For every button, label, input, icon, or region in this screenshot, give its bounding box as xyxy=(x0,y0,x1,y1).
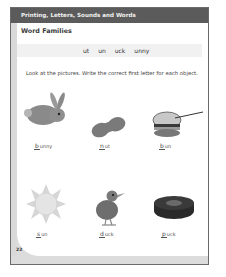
word-family: un xyxy=(98,47,106,54)
left-margin-stripe xyxy=(11,23,17,264)
hamburger-bun-icon xyxy=(151,110,207,144)
duck-icon xyxy=(93,188,127,232)
bottom-margin-stripe xyxy=(11,256,208,264)
answer-bun: bun xyxy=(159,142,171,150)
page-number: 22 xyxy=(16,247,22,252)
word-family: uck xyxy=(115,47,126,54)
workbook-page: Printing, Letters, Sounds and Words Word… xyxy=(10,7,209,265)
answer-bunny: bunny xyxy=(34,142,52,150)
rabbit-icon xyxy=(21,91,71,131)
answer-nut: nut xyxy=(99,142,110,150)
answer-sun: sun xyxy=(36,230,47,238)
answer-duck: duck xyxy=(99,230,114,238)
sun-icon xyxy=(23,184,69,228)
word-family: ut xyxy=(83,47,89,54)
section-header: Printing, Letters, Sounds and Words xyxy=(11,8,208,23)
answer-puck: puck xyxy=(161,230,176,238)
page-title: Word Families xyxy=(21,27,72,35)
hockey-puck-icon xyxy=(153,195,195,225)
instructions: Look at the pictures. Write the correct … xyxy=(26,69,201,77)
peanut-icon xyxy=(90,116,128,142)
word-family: unny xyxy=(134,47,149,54)
word-family-bank: ut un uck unny xyxy=(17,44,202,57)
